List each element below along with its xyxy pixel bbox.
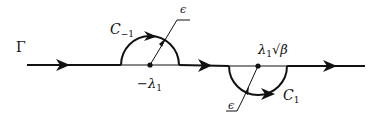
contour-drawing: [0, 0, 381, 123]
right-pole-label: λ1√β: [258, 43, 288, 59]
left-indentation-label-main: C: [110, 21, 121, 37]
left-radius-label: ϵ: [180, 4, 186, 15]
left-pole-label-sub: 1: [156, 83, 162, 93]
right-indentation-label: C1: [283, 88, 299, 105]
right-pole-label-main: λ: [258, 42, 266, 57]
left-pole-label-main: −λ: [137, 76, 156, 91]
contour-label: Γ: [16, 40, 26, 54]
right-indentation-label-main: C: [283, 87, 294, 103]
right-indentation-label-sub: 1: [294, 95, 300, 105]
contour-path: [27, 36, 365, 95]
left-pole-label: −λ1: [137, 77, 162, 93]
contour-diagram: Γ C−1 ϵ −λ1 λ1√β ϵ C1: [0, 0, 381, 123]
right-radius-label: ϵ: [228, 100, 234, 111]
left-indentation-label: C−1: [110, 22, 134, 39]
right-pole-label-suffix: √β: [272, 42, 288, 57]
left-indentation-label-sub: −1: [121, 29, 134, 39]
